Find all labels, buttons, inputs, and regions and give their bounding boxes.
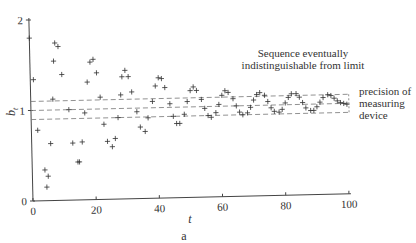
plus-marker bbox=[134, 109, 139, 114]
plus-marker bbox=[94, 70, 99, 75]
plus-marker bbox=[51, 58, 56, 63]
x-tick-label: 40 bbox=[154, 202, 166, 214]
plus-marker bbox=[122, 68, 127, 73]
plus-marker bbox=[167, 101, 172, 106]
y-tick-label: 0 bbox=[21, 195, 27, 207]
plus-marker bbox=[159, 76, 164, 81]
plus-marker bbox=[262, 93, 267, 98]
plus-marker bbox=[85, 79, 90, 84]
plus-marker bbox=[325, 92, 330, 97]
plus-marker bbox=[42, 167, 47, 172]
y-tick-label: 1 bbox=[19, 105, 25, 117]
plus-marker bbox=[138, 124, 143, 129]
x-axis bbox=[33, 194, 351, 201]
plus-marker bbox=[113, 136, 118, 141]
plus-marker bbox=[44, 184, 49, 189]
limit-line bbox=[31, 103, 349, 110]
plus-marker bbox=[213, 110, 218, 115]
plus-marker bbox=[55, 44, 60, 49]
plus-marker bbox=[118, 92, 123, 97]
subfigure-label: a bbox=[181, 229, 187, 243]
annotation-precision-line2: measuring bbox=[359, 97, 405, 109]
plus-marker bbox=[171, 114, 176, 119]
plus-marker bbox=[191, 84, 196, 89]
plus-marker bbox=[46, 174, 51, 179]
plus-marker bbox=[272, 109, 277, 114]
plus-marker bbox=[119, 74, 124, 79]
precision-bound-line bbox=[31, 94, 349, 101]
plus-marker bbox=[314, 104, 319, 109]
plus-marker bbox=[145, 115, 150, 120]
x-tick-label: 20 bbox=[91, 203, 103, 215]
plus-marker bbox=[153, 83, 158, 88]
plus-marker bbox=[311, 108, 316, 113]
plus-marker bbox=[59, 72, 64, 77]
plus-marker bbox=[101, 122, 106, 127]
plus-marker bbox=[268, 105, 273, 110]
plus-marker bbox=[237, 109, 242, 114]
plus-marker bbox=[331, 96, 336, 101]
y-axis bbox=[29, 18, 33, 201]
x-tick-label: 0 bbox=[30, 205, 36, 217]
plus-marker bbox=[27, 35, 32, 40]
annotation-sequence-line1: Sequence eventually bbox=[258, 47, 349, 59]
plus-marker bbox=[129, 89, 134, 94]
plus-marker bbox=[280, 107, 285, 112]
plus-marker bbox=[115, 115, 120, 120]
plus-marker bbox=[52, 40, 57, 45]
plus-marker bbox=[303, 105, 308, 110]
plus-marker bbox=[156, 75, 161, 80]
plus-marker bbox=[143, 129, 148, 134]
plus-marker bbox=[82, 110, 87, 115]
plus-marker bbox=[126, 74, 131, 79]
plus-marker bbox=[110, 144, 115, 149]
annotation-precision-line1: precision of bbox=[359, 85, 412, 97]
plus-marker bbox=[70, 140, 75, 145]
plus-marker bbox=[194, 88, 199, 93]
precision-bound-line bbox=[31, 112, 349, 119]
plus-marker bbox=[234, 103, 239, 108]
plus-marker bbox=[150, 99, 155, 104]
plus-marker bbox=[185, 99, 190, 104]
plus-marker bbox=[35, 128, 40, 133]
plus-marker bbox=[162, 85, 167, 90]
plus-marker bbox=[48, 141, 53, 146]
plot-area: 012 020406080100 bbox=[17, 7, 358, 218]
sequence-chart: 012 020406080100 bt t a Sequence eventua… bbox=[0, 0, 416, 243]
precision-band bbox=[31, 94, 349, 119]
x-tick-label: 100 bbox=[341, 198, 358, 210]
plus-marker bbox=[341, 101, 346, 106]
plus-marker bbox=[177, 121, 182, 126]
plus-marker bbox=[87, 59, 92, 64]
annotation-precision-line3: device bbox=[359, 109, 388, 121]
plus-marker bbox=[328, 93, 333, 98]
plus-marker bbox=[265, 99, 270, 104]
annotation-sequence-line2: indistinguishable from limit bbox=[242, 59, 365, 71]
x-axis-label: t bbox=[188, 212, 192, 226]
y-axis-label: bt bbox=[4, 107, 20, 116]
plus-marker bbox=[31, 77, 36, 82]
plus-marker bbox=[90, 57, 95, 62]
plus-marker bbox=[98, 95, 103, 100]
x-tick-label: 60 bbox=[217, 201, 229, 213]
plus-marker bbox=[251, 97, 256, 102]
x-tick-label: 80 bbox=[280, 199, 292, 211]
plus-marker bbox=[187, 88, 192, 93]
plus-marker bbox=[66, 107, 71, 112]
plus-marker bbox=[105, 139, 110, 144]
y-tick-label: 2 bbox=[17, 14, 23, 26]
plus-marker bbox=[320, 95, 325, 100]
plus-marker bbox=[80, 139, 85, 144]
plus-marker bbox=[240, 112, 245, 117]
